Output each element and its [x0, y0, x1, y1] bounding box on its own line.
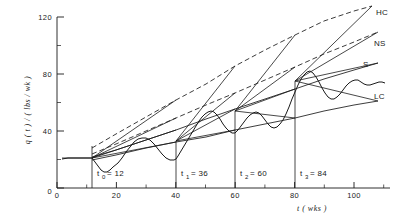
node-annotation-t2-subscript: 2 [245, 174, 249, 180]
fan-line-t1-a [176, 66, 235, 141]
y-axis-tick-labels: 120 80 40 0 [38, 13, 52, 196]
x-axis-ticks [57, 182, 384, 188]
fan-line-t3-a [295, 6, 372, 81]
node-annotation-t3-value: = 84 [310, 169, 327, 178]
x-tick-label-100: 100 [347, 191, 361, 200]
series-labels: HC NS S LC [363, 8, 388, 101]
chart-plot-area: 120 80 40 0 0 20 40 60 80 100 [0, 0, 404, 221]
y-tick-label-80: 80 [43, 70, 52, 79]
x-tick-label-0: 0 [55, 191, 60, 200]
fan-line-t1-d [176, 130, 235, 141]
series-label-NS: NS [374, 39, 386, 48]
node-annotation-t2: t 2 = 60 [240, 169, 267, 180]
node-annotations: t 0 = 12 t 1 = 36 t 2 = 60 t 3 = 84 [97, 169, 327, 180]
node-annotation-t2-symbol: t [240, 169, 243, 178]
y-tick-label-120: 120 [38, 13, 52, 22]
fan-line-t1-b [176, 93, 235, 141]
x-tick-label-80: 80 [290, 191, 299, 200]
y-axis-ticks [57, 17, 64, 188]
series-label-S: S [363, 60, 369, 69]
x-tick-label-60: 60 [231, 191, 240, 200]
node-annotation-t1-symbol: t [181, 169, 184, 178]
fan-line-t3-b [295, 32, 378, 81]
x-tick-label-40: 40 [171, 191, 180, 200]
node-annotation-t3-symbol: t [300, 169, 303, 178]
x-axis-title: t ( wks ) [297, 204, 327, 213]
node-annotation-t0-value: = 12 [107, 169, 124, 178]
node-annotation-t3: t 3 = 84 [300, 169, 327, 180]
y-tick-label-40: 40 [43, 127, 52, 136]
series-label-HC: HC [376, 8, 388, 17]
y-tick-label-0: 0 [47, 187, 52, 196]
node-annotation-t1-subscript: 1 [186, 174, 190, 180]
node-annotation-t2-value: = 60 [250, 169, 267, 178]
series-line-actual [62, 71, 385, 172]
fan-line-t0-a [92, 100, 176, 158]
series-label-LC: LC [374, 92, 385, 101]
chart-figure: 120 80 40 0 0 20 40 60 80 100 [0, 0, 404, 221]
node-annotation-t0-symbol: t [97, 169, 100, 178]
y-axis-title: q ( t ) / ( lbs / wk ) [23, 76, 32, 145]
node-annotation-t1: t 1 = 36 [181, 169, 208, 180]
x-axis-tick-labels: 0 20 40 60 80 100 [55, 191, 361, 200]
node-annotation-t0-subscript: 0 [102, 174, 106, 180]
x-tick-label-20: 20 [112, 191, 121, 200]
node-annotation-t1-value: = 36 [191, 169, 208, 178]
node-annotation-t3-subscript: 3 [305, 174, 309, 180]
